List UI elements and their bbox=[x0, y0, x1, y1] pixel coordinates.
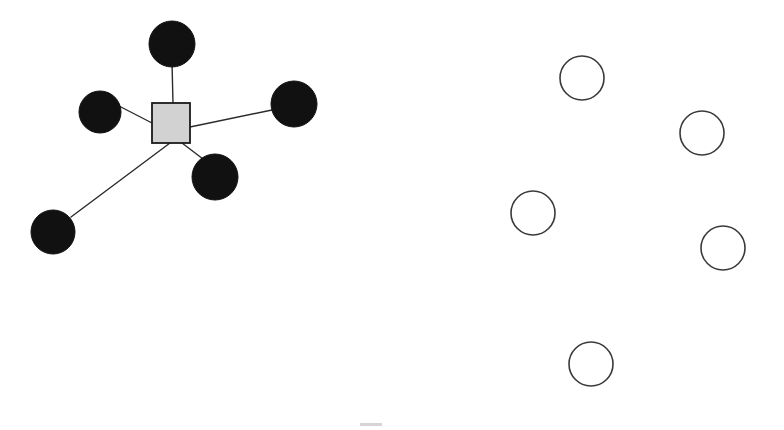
scan-artifact bbox=[360, 423, 382, 426]
filled-node-circle[interactable] bbox=[192, 154, 238, 200]
filled-node-circle[interactable] bbox=[79, 91, 121, 133]
open-node-circle[interactable] bbox=[701, 226, 745, 270]
open-node-circle[interactable] bbox=[511, 191, 555, 235]
hub-node-layer bbox=[152, 103, 190, 143]
graph-edge[interactable] bbox=[172, 62, 173, 104]
canvas-background bbox=[0, 0, 784, 430]
filled-node-circle[interactable] bbox=[149, 21, 195, 67]
filled-node-circle[interactable] bbox=[271, 81, 317, 127]
node-link-diagram bbox=[0, 0, 784, 430]
open-node-circle[interactable] bbox=[680, 111, 724, 155]
open-node-circle[interactable] bbox=[569, 342, 613, 386]
open-node-circle[interactable] bbox=[560, 56, 604, 100]
hub-node-square[interactable] bbox=[152, 103, 190, 143]
filled-node-circle[interactable] bbox=[31, 210, 75, 254]
diagram-canvas bbox=[0, 0, 784, 430]
artifact-layer bbox=[360, 423, 382, 426]
